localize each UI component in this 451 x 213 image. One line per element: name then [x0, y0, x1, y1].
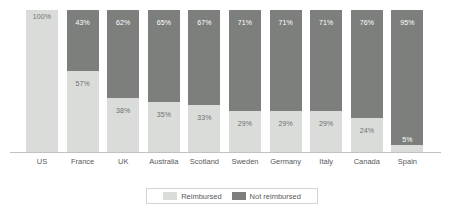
legend-item-reimb[interactable]: Reimbursed	[163, 192, 221, 201]
bar-sweden: 71%29%	[229, 10, 261, 152]
chart-legend: ReimbursedNot reimbursed	[146, 188, 318, 204]
bar-italy: 71%29%	[310, 10, 342, 152]
segment-not-reimbursed: 71%	[310, 10, 342, 111]
segment-value-label: 38%	[107, 107, 139, 115]
segment-not-reimbursed: 71%	[270, 10, 302, 111]
segment-not-reimbursed: 67%	[188, 10, 220, 105]
segment-not-reimbursed: 71%	[229, 10, 261, 111]
segment-value-label: 95%	[391, 19, 423, 27]
segment-value-label: 57%	[67, 80, 99, 88]
segment-reimbursed: 33%	[188, 105, 220, 152]
segment-reimbursed: 24%	[351, 118, 383, 152]
stacked-bar-chart: 100%43%57%62%38%65%35%67%33%71%29%71%29%…	[0, 0, 451, 213]
bar-germany: 71%29%	[270, 10, 302, 152]
legend-swatch-icon	[163, 192, 177, 200]
segment-not-reimbursed: 95%	[391, 10, 423, 145]
segment-reimbursed: 5%	[391, 145, 423, 152]
bar-us: 100%	[26, 10, 58, 152]
bar-scotland: 67%33%	[188, 10, 220, 152]
plot-area: 100%43%57%62%38%65%35%67%33%71%29%71%29%…	[0, 0, 451, 153]
legend-label: Reimbursed	[181, 192, 221, 201]
legend-label: Not reimbursed	[250, 192, 301, 201]
segment-reimbursed: 35%	[148, 102, 180, 152]
segment-reimbursed: 57%	[67, 71, 99, 152]
legend-swatch-icon	[232, 192, 246, 200]
segment-value-label: 100%	[26, 13, 58, 21]
bar-spain: 95%5%	[391, 10, 423, 152]
category-label-spain: Spain	[377, 157, 437, 167]
segment-value-label: 71%	[310, 19, 342, 27]
segment-not-reimbursed: 76%	[351, 10, 383, 118]
segment-value-label: 67%	[188, 19, 220, 27]
segment-value-label: 33%	[188, 114, 220, 122]
segment-value-label: 76%	[351, 19, 383, 27]
segment-reimbursed: 29%	[229, 111, 261, 152]
segment-value-label: 29%	[310, 120, 342, 128]
bar-canada: 76%24%	[351, 10, 383, 152]
segment-value-label: 71%	[229, 19, 261, 27]
segment-value-label: 71%	[270, 19, 302, 27]
segment-value-label: 29%	[229, 120, 261, 128]
segment-reimbursed: 100%	[26, 10, 58, 152]
segment-value-label: 35%	[148, 111, 180, 119]
segment-value-label: 62%	[107, 19, 139, 27]
segment-not-reimbursed: 43%	[67, 10, 99, 71]
segment-not-reimbursed: 62%	[107, 10, 139, 98]
segment-reimbursed: 38%	[107, 98, 139, 152]
x-axis-line	[10, 152, 441, 153]
legend-item-notreimb[interactable]: Not reimbursed	[232, 192, 301, 201]
bar-france: 43%57%	[67, 10, 99, 152]
segment-value-label: 43%	[67, 19, 99, 27]
segment-not-reimbursed: 65%	[148, 10, 180, 102]
segment-value-label: 24%	[351, 127, 383, 135]
x-axis-category-labels: USFranceUKAustraliaScotlandSwedenGermany…	[0, 157, 451, 171]
segment-reimbursed: 29%	[310, 111, 342, 152]
segment-value-label: 29%	[270, 120, 302, 128]
segment-reimbursed: 29%	[270, 111, 302, 152]
segment-value-label: 5%	[391, 136, 423, 144]
segment-value-label: 65%	[148, 19, 180, 27]
bar-uk: 62%38%	[107, 10, 139, 152]
bar-australia: 65%35%	[148, 10, 180, 152]
